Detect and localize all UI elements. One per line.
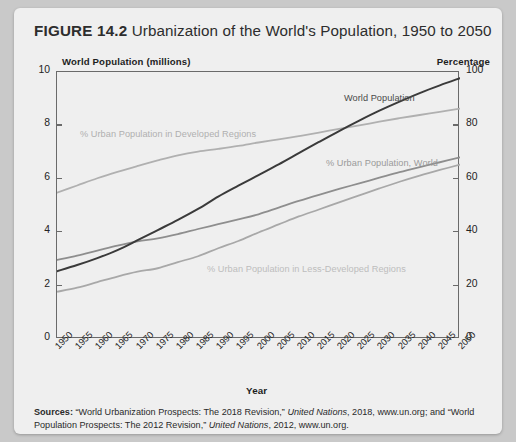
tick-mark — [453, 178, 458, 179]
x-axis-title: Year — [246, 385, 267, 396]
y-axis-left-title: World Population (millions) — [62, 56, 191, 67]
figure-card: FIGURE 14.2 Urbanization of the World's … — [14, 8, 502, 434]
sources-label: Sources: — [34, 407, 73, 417]
y-tick-left-6: 6 — [24, 171, 50, 182]
series-line-1 — [57, 109, 460, 193]
tick-mark — [57, 231, 62, 232]
sources-note: Sources: “World Urbanization Prospects: … — [34, 406, 492, 433]
tick-mark — [453, 231, 458, 232]
tick-mark — [453, 124, 458, 125]
series-label-developed-regions: % Urban Population in Developed Regions — [80, 129, 256, 139]
tick-mark — [57, 178, 62, 179]
plot-frame — [56, 71, 459, 338]
sources-text-3: , 2012, www.un.org. — [268, 420, 348, 430]
sources-italic-2: United Nations — [209, 420, 269, 430]
y-tick-left-2: 2 — [24, 278, 50, 289]
series-line-2 — [57, 157, 460, 260]
sources-text-1: “World Urbanization Prospects: The 2018 … — [73, 407, 287, 417]
tick-mark — [57, 124, 62, 125]
series-line-0 — [57, 78, 460, 271]
y-tick-right-80: 80 — [466, 117, 492, 128]
series-label-less-developed-regions: % Urban Population in Less-Developed Reg… — [207, 264, 406, 274]
series-label-world-population: World Population — [344, 93, 415, 103]
y-tick-right-60: 60 — [466, 171, 492, 182]
y-tick-left-10: 10 — [24, 64, 50, 75]
y-tick-left-0: 0 — [24, 331, 50, 342]
y-tick-left-4: 4 — [24, 224, 50, 235]
tick-mark — [57, 285, 62, 286]
sources-italic-1: United Nations — [287, 407, 347, 417]
chart-canvas: World Population (millions) Percentage Y… — [14, 8, 502, 434]
y-tick-right-20: 20 — [466, 278, 492, 289]
plot-lines — [57, 72, 460, 339]
y-tick-left-8: 8 — [24, 117, 50, 128]
y-tick-right-40: 40 — [466, 224, 492, 235]
tick-mark — [453, 285, 458, 286]
y-tick-right-100: 100 — [466, 64, 492, 75]
series-label-world-urban: % Urban Population, World — [326, 158, 438, 168]
